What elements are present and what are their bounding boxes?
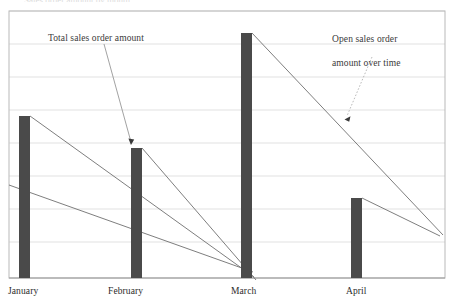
axis-label-march: March — [231, 286, 256, 296]
annotation-open-line-2: amount over time — [332, 57, 401, 69]
bar-february[interactable] — [131, 148, 142, 278]
axis-label-february: February — [108, 286, 143, 296]
bar-march[interactable] — [241, 33, 252, 278]
annotation-total-sales-order-amount: Total sales order amount — [48, 32, 144, 44]
axis-label-january: January — [8, 286, 38, 296]
chart-screenshot: Sales order amount by month — [0, 0, 454, 304]
bar-april[interactable] — [351, 198, 362, 278]
axis-label-april: April — [346, 286, 367, 296]
annotation-open-line-1: Open sales order — [332, 33, 401, 45]
annotation-open-sales-order-amount: Open sales order amount over time — [332, 21, 401, 81]
bar-january[interactable] — [19, 116, 30, 278]
